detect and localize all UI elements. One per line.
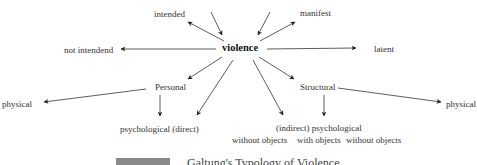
figure-label-box xyxy=(116,158,170,165)
arrow-into-violence-left xyxy=(211,12,222,35)
arrow-structural-to-physical xyxy=(338,88,441,102)
arrow-to-structural xyxy=(259,57,294,79)
label-not-intended: not intendend xyxy=(64,45,113,55)
label-personal: Personal xyxy=(155,82,186,92)
arrow-personal-to-physical xyxy=(44,89,146,102)
arrow-to-intended xyxy=(188,22,224,41)
label-structural: Structural xyxy=(300,82,336,92)
label-violence: violence xyxy=(222,43,258,53)
arrow-to-manifest xyxy=(260,22,295,41)
label-with-objects: with objects xyxy=(297,135,341,145)
violence-typology-diagram: intended manifest not intendend violence… xyxy=(0,0,477,165)
label-intended: intended xyxy=(154,9,185,19)
label-physical-personal: physical xyxy=(2,99,32,109)
label-latent: latent xyxy=(374,44,394,54)
figure-caption: Galtung's Typology of Violence xyxy=(187,156,339,165)
arrow-to-indirect xyxy=(253,60,283,115)
arrow-to-psychological-direct xyxy=(197,60,233,115)
label-manifest: manifest xyxy=(300,8,331,18)
label-without-objects-1: without objects xyxy=(232,135,287,145)
arrow-into-violence-right xyxy=(258,12,270,35)
arrow-to-latent xyxy=(267,48,356,49)
label-physical-structural: physical xyxy=(446,99,476,109)
label-without-objects-2: without objects xyxy=(346,135,401,145)
label-indirect-psychological: (indirect) psychological xyxy=(276,123,362,133)
arrow-to-personal xyxy=(188,57,222,79)
label-psychological-direct: psychological (direct) xyxy=(120,124,199,134)
